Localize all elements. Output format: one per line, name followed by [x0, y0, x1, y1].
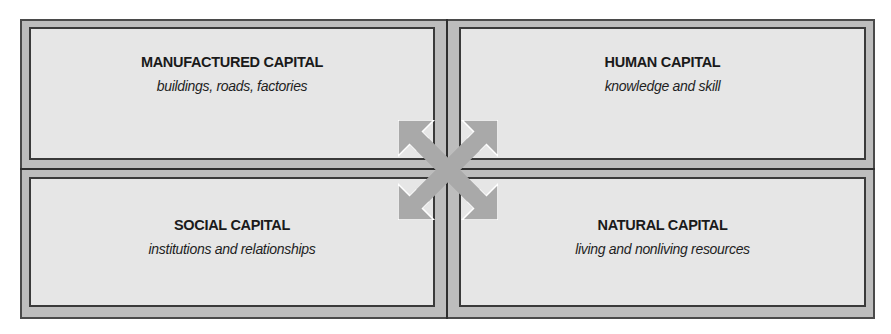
panel-subtitle: knowledge and skill: [605, 78, 721, 94]
four-way-diagonal-arrows-icon: [398, 120, 498, 220]
panel-title: NATURAL CAPITAL: [597, 217, 727, 233]
panel-title: HUMAN CAPITAL: [605, 54, 721, 70]
panel-title: SOCIAL CAPITAL: [174, 217, 290, 233]
panel-human-capital: HUMAN CAPITAL knowledge and skill: [459, 27, 866, 160]
panel-natural-capital: NATURAL CAPITAL living and nonliving res…: [459, 177, 866, 307]
panel-subtitle: institutions and relationships: [149, 241, 316, 257]
panel-title: MANUFACTURED CAPITAL: [141, 54, 323, 70]
panel-manufactured-capital: MANUFACTURED CAPITAL buildings, roads, f…: [29, 27, 435, 160]
panel-subtitle: buildings, roads, factories: [157, 78, 308, 94]
panel-social-capital: SOCIAL CAPITAL institutions and relation…: [29, 177, 435, 307]
panel-subtitle: living and nonliving resources: [575, 241, 750, 257]
